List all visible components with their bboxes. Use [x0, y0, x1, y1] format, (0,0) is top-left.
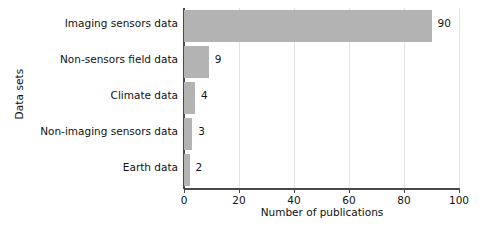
bar-group: 4: [184, 80, 459, 116]
bar: [184, 154, 190, 186]
bar-group: 2: [184, 152, 459, 188]
x-axis-tick: [404, 188, 405, 193]
x-axis-tick: [184, 188, 185, 193]
x-axis-tick: [239, 188, 240, 193]
bar: [184, 46, 209, 78]
bar-value-label: 3: [198, 125, 205, 137]
y-axis-category-label: Non-imaging sensors data: [18, 125, 178, 137]
bar-value-label: 9: [215, 53, 222, 65]
x-axis-tick-label: 0: [167, 194, 201, 206]
x-axis-tick-label: 100: [442, 194, 476, 206]
y-axis-category-label: Earth data: [18, 161, 178, 173]
bar-value-label: 4: [201, 89, 208, 101]
bar: [184, 10, 432, 42]
x-axis-tick-label: 80: [387, 194, 421, 206]
x-axis-line: [184, 188, 460, 190]
x-axis-tick: [459, 188, 460, 193]
bar-group: 3: [184, 116, 459, 152]
y-axis-category-label: Climate data: [18, 89, 178, 101]
bar-group: 9: [184, 44, 459, 80]
bar-value-label: 2: [196, 161, 203, 173]
bar-group: 90: [184, 8, 459, 44]
grid-line: [459, 8, 460, 188]
x-axis-tick-label: 60: [332, 194, 366, 206]
x-axis-title: Number of publications: [184, 206, 460, 218]
x-axis-tick: [349, 188, 350, 193]
bar: [184, 118, 192, 150]
x-axis-tick-label: 40: [277, 194, 311, 206]
x-axis-tick: [294, 188, 295, 193]
bar-value-label: 90: [438, 17, 451, 29]
y-axis-category-label: Imaging sensors data: [18, 17, 178, 29]
bar-chart: Data sets Number of publications 90Imagi…: [0, 0, 486, 237]
bar: [184, 82, 195, 114]
x-axis-tick-label: 20: [222, 194, 256, 206]
y-axis-category-label: Non-sensors field data: [18, 53, 178, 65]
